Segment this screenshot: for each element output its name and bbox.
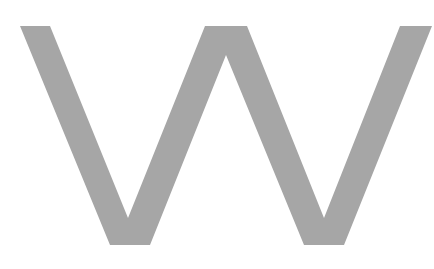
w-shape-icon [0, 0, 434, 269]
letter-w-graphic: W [0, 0, 434, 269]
